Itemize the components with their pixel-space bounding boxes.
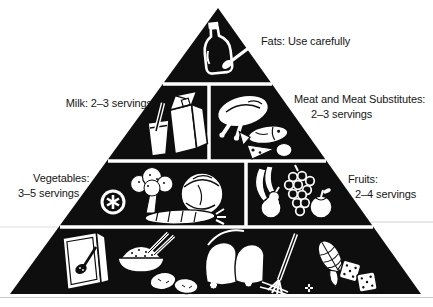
fats-label-text: Fats: Use carefully	[261, 35, 350, 47]
vegetables-label-line2: 3–5 servings	[18, 186, 89, 201]
fruits-label-line1: Fruits:	[348, 172, 416, 187]
fats-label: Fats: Use carefully	[261, 34, 350, 49]
food-pyramid-diagram: Fats: Use carefully Milk: 2–3 servings M…	[0, 0, 433, 307]
meat-label-line1: Meat and Meat Substitutes:	[294, 92, 425, 107]
egg-icon	[276, 144, 292, 157]
pyramid-illustration	[0, 0, 433, 307]
milk-label: Milk: 2–3 servings	[40, 96, 152, 111]
meat-label: Meat and Meat Substitutes: 2–3 servings	[294, 92, 425, 121]
cabbage-icon	[181, 173, 223, 215]
vegetables-label-line1: Vegetables:	[33, 171, 89, 186]
milk-label-text: Milk: 2–3 servings	[66, 97, 152, 109]
meat-label-line2: 2–3 servings	[311, 107, 425, 122]
tomato-slice-icon	[101, 190, 126, 215]
fruits-label: Fruits: 2–4 servings	[348, 172, 416, 201]
fruits-label-line2: 2–4 servings	[355, 187, 416, 202]
vegetables-label: Vegetables: 3–5 servings	[18, 171, 89, 200]
